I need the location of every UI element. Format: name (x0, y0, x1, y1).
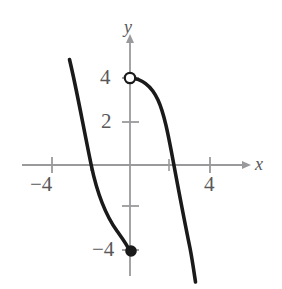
x-tick-label-pos4: 4 (204, 174, 215, 195)
open-circle-marker (125, 73, 135, 83)
y-tick-label-neg4: −4 (92, 239, 114, 260)
coordinate-plane-svg (0, 0, 282, 289)
curve-right-branch (130, 78, 196, 282)
graph-figure: −4 4 4 2 −4 x y (0, 0, 282, 289)
x-tick-label-neg4: −4 (30, 174, 52, 195)
closed-circle-marker (126, 246, 136, 256)
y-tick-label-2: 2 (101, 111, 112, 132)
y-tick-label-4: 4 (100, 67, 111, 88)
y-axis-label: y (124, 18, 132, 36)
x-axis-label: x (255, 155, 263, 173)
